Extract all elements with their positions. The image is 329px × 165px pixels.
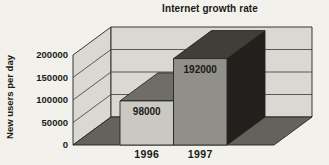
y-tick-label: 0 (63, 139, 68, 150)
y-tick-label: 100000 (36, 94, 68, 105)
y-tick-label: 200000 (36, 49, 68, 60)
chart-canvas: 9800019961920001997050000100000150000200… (0, 0, 329, 165)
y-tick-label: 50000 (42, 117, 68, 128)
x-tick-label: 1996 (134, 148, 159, 160)
chart-figure: 9800019961920001997050000100000150000200… (0, 0, 329, 165)
bar-value-label: 98000 (133, 106, 161, 117)
chart-title: Internet growth rate (162, 3, 258, 14)
y-axis-title: New users per day (4, 54, 15, 139)
bar-value-label: 192000 (184, 64, 218, 75)
y-tick-label: 150000 (36, 72, 68, 83)
x-tick-label: 1997 (188, 148, 213, 160)
